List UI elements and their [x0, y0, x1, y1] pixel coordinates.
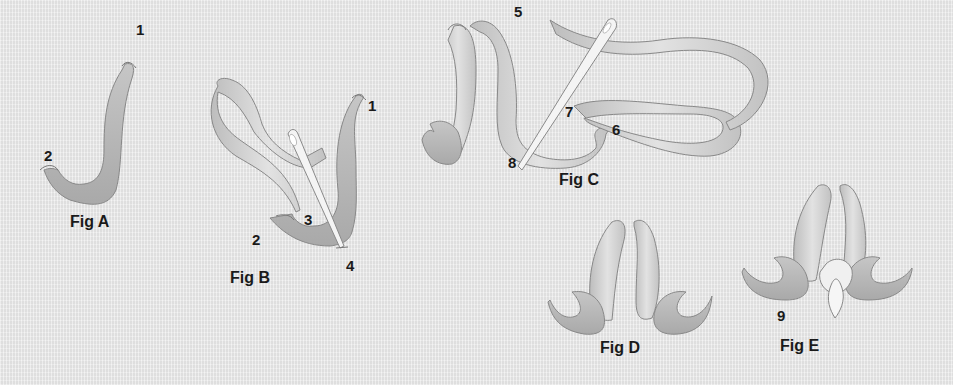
fig-d-ribbon [548, 220, 712, 334]
point-label-1-fig-b: 1 [368, 98, 376, 113]
point-label-5-fig-c: 5 [514, 4, 522, 19]
point-label-1-fig-a: 1 [136, 22, 144, 37]
fig-b-ribbon [211, 78, 366, 246]
point-label-2-fig-b: 2 [252, 232, 260, 247]
point-label-2-fig-a: 2 [44, 148, 52, 163]
caption-fig-b: Fig B [230, 270, 270, 286]
point-label-8-fig-c: 8 [508, 155, 516, 170]
caption-fig-a: Fig A [70, 214, 109, 230]
diagram-canvas: 1 2 1 2 3 4 5 6 7 8 9 Fig A Fig B Fig C … [0, 0, 953, 385]
caption-fig-d: Fig D [600, 340, 640, 356]
caption-fig-c: Fig C [559, 172, 599, 188]
point-label-6-fig-c: 6 [612, 122, 620, 137]
point-label-4-fig-b: 4 [346, 258, 354, 273]
ribbon-illustrations [0, 0, 953, 385]
point-label-9-fig-e: 9 [777, 308, 785, 323]
point-label-7-fig-c: 7 [565, 104, 573, 119]
fig-e-ribbon [742, 185, 912, 318]
point-label-3-fig-b: 3 [304, 212, 312, 227]
caption-fig-e: Fig E [780, 338, 819, 354]
fig-a-ribbon [40, 62, 136, 204]
